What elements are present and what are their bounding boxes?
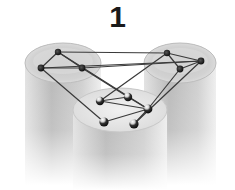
node-R1 <box>164 50 170 56</box>
node-C3 <box>144 105 153 114</box>
node-L1 <box>55 49 61 55</box>
node-R3 <box>177 66 184 73</box>
node-L3 <box>79 65 86 72</box>
node-R2 <box>198 58 205 65</box>
node-C4 <box>99 117 108 126</box>
node-L2 <box>38 65 45 72</box>
cylinder-network-diagram <box>0 0 235 190</box>
node-C2 <box>124 93 132 101</box>
node-C5 <box>129 119 138 128</box>
node-C1 <box>96 97 104 105</box>
